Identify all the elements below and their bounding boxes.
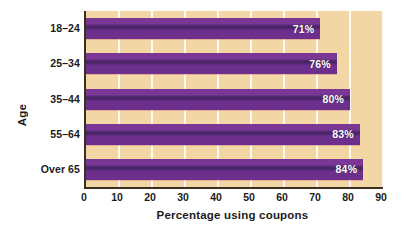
x-axis-tick-label: 80 <box>342 191 354 203</box>
x-axis-tick-label: 10 <box>111 191 123 203</box>
x-axis-tick-labels: 0102030405060708090 <box>84 191 381 207</box>
bar: 80% <box>86 89 350 110</box>
x-axis-tick-label: 40 <box>210 191 222 203</box>
x-axis-tick-label: 90 <box>375 191 387 203</box>
x-axis-tick-label: 70 <box>309 191 321 203</box>
bar: 71% <box>86 18 320 39</box>
bar-value-label: 71% <box>293 23 315 35</box>
bar-value-label: 83% <box>332 128 354 140</box>
y-axis-tick-label: 55–64 <box>28 128 80 140</box>
bar: 83% <box>86 124 360 145</box>
y-axis-tick-label: Over 65 <box>28 163 80 175</box>
bar-chart-figure: Age 18–2425–3435–4455–64Over 65 71%76%80… <box>0 0 409 238</box>
bar-value-label: 84% <box>336 163 358 175</box>
y-axis-tick-label: 18–24 <box>28 22 80 34</box>
y-axis-title-text: Age <box>16 104 28 126</box>
gridline <box>382 11 384 187</box>
bar: 84% <box>86 159 363 180</box>
x-axis-tick-label: 0 <box>81 191 87 203</box>
bar-value-label: 80% <box>322 93 344 105</box>
x-axis-tick-label: 20 <box>144 191 156 203</box>
plot-area: 71%76%80%83%84% <box>84 11 383 187</box>
bar-value-label: 76% <box>309 58 331 70</box>
x-axis-line <box>84 187 383 189</box>
y-axis-tick-labels: 18–2425–3435–4455–64Over 65 <box>30 11 82 187</box>
x-axis-title: Percentage using coupons <box>84 209 381 221</box>
y-axis-tick-label: 35–44 <box>28 93 80 105</box>
y-axis-tick-label: 25–34 <box>28 57 80 69</box>
x-axis-tick-label: 30 <box>177 191 189 203</box>
x-axis-tick-label: 50 <box>243 191 255 203</box>
bar: 76% <box>86 53 337 74</box>
x-axis-tick-label: 60 <box>276 191 288 203</box>
